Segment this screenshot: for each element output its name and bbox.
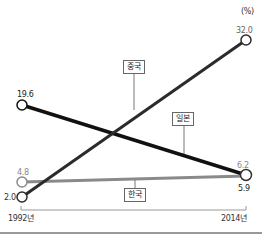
china-start-value: 2.0 [4,193,16,202]
x-label-start: 1992년 [8,214,34,223]
japan-end-value: 5.9 [238,184,250,193]
china-label-box: 중국 [123,60,145,74]
japan-label-box: 일본 [172,112,194,126]
japan-start-marker [17,100,27,110]
line-chart: (%) 32.0 19.6 4.8 2.0 6.2 5.9 1992년 2014… [0,0,262,237]
japan-korea-end-marker [241,170,252,181]
japan-start-value: 19.6 [17,90,34,99]
china-end-value: 32.0 [236,26,253,35]
korea-end-value: 6.2 [237,161,249,170]
korea-line [22,176,246,182]
korea-start-value: 4.8 [17,168,29,177]
unit-label: (%) [241,7,254,16]
japan-line [22,105,246,175]
china-end-marker [241,35,251,45]
china-start-marker [17,192,27,202]
x-label-end: 2014년 [221,214,247,223]
korea-start-marker [17,177,27,187]
korea-label-box: 한국 [124,188,146,202]
